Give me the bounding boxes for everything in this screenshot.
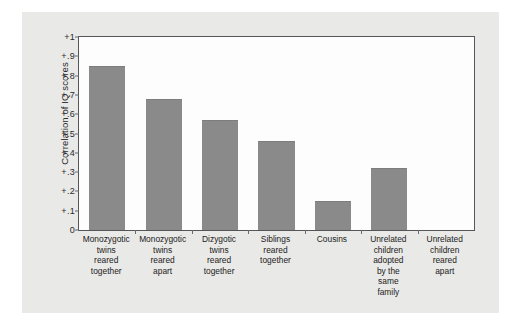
x-axis-category-label-line: family — [361, 287, 415, 298]
y-axis-tick-label: +.7 — [61, 90, 75, 100]
bar — [315, 201, 351, 230]
x-axis-category-label-line: reared — [135, 255, 189, 266]
bar — [202, 120, 238, 230]
bar — [371, 168, 407, 230]
x-axis-category-label-line: together — [192, 266, 246, 277]
y-axis-tick-label: +.6 — [61, 109, 75, 119]
x-axis-category-label: Cousins — [304, 234, 360, 245]
x-axis-category-label-line: Siblings — [248, 234, 302, 245]
x-axis-category-label-line: reared — [248, 245, 302, 256]
y-axis-tick-label: +.1 — [61, 206, 75, 216]
x-axis-category-label-line: Unrelated — [418, 234, 472, 245]
x-axis-category-label-line: apart — [418, 266, 472, 277]
x-axis-category-labels: MonozygotictwinsrearedtogetherMonozygoti… — [78, 234, 473, 298]
y-axis-tick-label: +.9 — [61, 51, 75, 61]
bar — [146, 99, 182, 230]
x-axis-category-label-line: reared — [192, 255, 246, 266]
bar-slot — [305, 37, 361, 230]
x-axis-category-label: Monozygotictwinsrearedapart — [134, 234, 190, 276]
y-axis-tick-label: +1 — [64, 32, 75, 42]
x-axis-category-label-line: together — [79, 266, 133, 277]
bar-slot — [192, 37, 248, 230]
x-axis-category-label-line: same — [361, 276, 415, 287]
x-axis-category-label-line: Cousins — [305, 234, 359, 245]
x-axis-category-label: Unrelatedchildrenadoptedby thesamefamily — [360, 234, 416, 298]
y-axis-tick-label: +.5 — [61, 129, 75, 139]
x-axis-category-label-line: twins — [135, 245, 189, 256]
bar — [258, 141, 294, 230]
bar-slot — [248, 37, 304, 230]
x-axis-category-label-line: together — [248, 255, 302, 266]
x-axis-category-label-line: reared — [418, 255, 472, 266]
bar-slot — [361, 37, 417, 230]
x-axis-category-label-line: adopted — [361, 255, 415, 266]
x-axis-category-label-line: Monozygotic — [79, 234, 133, 245]
figure-panel: Correlation of IQ scores +1+.9+.8+.7+.6+… — [22, 12, 499, 313]
y-axis-tick-label: +.2 — [61, 186, 75, 196]
bar-series — [79, 37, 474, 230]
x-axis-category-label-line: apart — [135, 266, 189, 277]
x-axis-category-label-line: Unrelated — [361, 234, 415, 245]
x-axis-category-label-line: Dizygotic — [192, 234, 246, 245]
x-axis-category-label: Siblingsrearedtogether — [247, 234, 303, 266]
y-axis-tick-label: +.4 — [61, 148, 75, 158]
x-axis-category-label-line: twins — [192, 245, 246, 256]
bar — [89, 66, 125, 230]
y-axis-tick-label: +.8 — [61, 71, 75, 81]
x-axis-category-label-line: children — [418, 245, 472, 256]
x-axis-category-label-line: Monozygotic — [135, 234, 189, 245]
plot-area: +1+.9+.8+.7+.6+.5+.4+.3+.2+.10 — [78, 36, 475, 231]
x-axis-category-label-line: reared — [79, 255, 133, 266]
x-axis-category-label-line: by the — [361, 266, 415, 277]
bar-slot — [79, 37, 135, 230]
x-axis-category-label: Monozygotictwinsrearedtogether — [78, 234, 134, 276]
bar-slot — [135, 37, 191, 230]
x-axis-category-label: Dizygotictwinsrearedtogether — [191, 234, 247, 276]
x-axis-category-label: Unrelatedchildrenrearedapart — [417, 234, 473, 276]
y-axis-tick-label: +.3 — [61, 167, 75, 177]
x-axis-category-label-line: twins — [79, 245, 133, 256]
x-axis-category-label-line: children — [361, 245, 415, 256]
bar-slot — [418, 37, 474, 230]
